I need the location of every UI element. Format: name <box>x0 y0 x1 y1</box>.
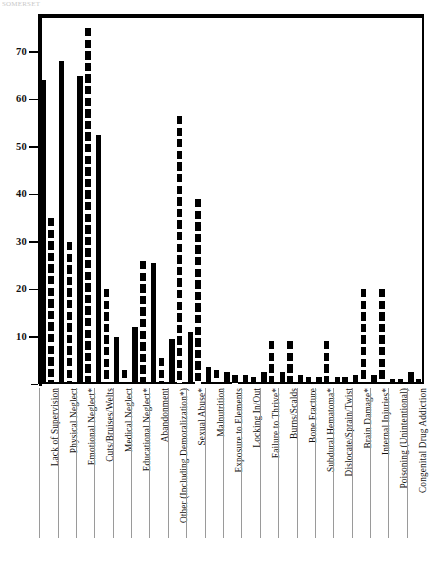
x-axis-separator <box>241 388 242 538</box>
bar-solid <box>390 379 395 384</box>
y-axis-tick-label: 10 <box>16 331 27 343</box>
bar-solid <box>114 337 119 384</box>
x-axis-separator <box>315 388 316 538</box>
x-axis-separator <box>205 388 206 538</box>
x-axis-label-slot: Failure to Thrive* <box>262 388 274 568</box>
bar-group <box>369 14 387 384</box>
x-axis-label-slot: Physical Neglect <box>60 388 72 568</box>
bar-dashed <box>177 116 182 384</box>
y-axis-tick-mark <box>29 241 38 243</box>
x-axis-label-slot: Congenital Drug Addiction <box>409 388 421 568</box>
bar-group <box>277 14 295 384</box>
bar-dashed <box>67 242 72 384</box>
x-axis-category-label: Congenital Drug Addiction <box>418 388 428 493</box>
bar-group <box>295 14 313 384</box>
bar-group <box>259 14 277 384</box>
x-axis-label-slot: Exposure to Elements <box>225 388 237 568</box>
bar-dashed <box>140 261 145 384</box>
bar-solid <box>151 263 156 384</box>
bar-dashed <box>324 341 329 384</box>
bar-solid <box>316 377 321 384</box>
bar-solid <box>169 339 174 384</box>
x-axis-label-slot: Internal Injuries* <box>372 388 384 568</box>
bar-dashed <box>232 375 237 384</box>
bar-dashed <box>398 379 403 384</box>
x-axis-separator <box>94 388 95 538</box>
bar-group <box>332 14 350 384</box>
x-axis-separator <box>297 388 298 538</box>
bar-dashed <box>269 341 274 384</box>
x-axis-label-slot: Brain Damage* <box>354 388 366 568</box>
bar-group <box>167 14 185 384</box>
bar-series-container <box>38 14 424 384</box>
bar-dashed <box>342 377 347 384</box>
x-axis-label-slot: Bone Fracture <box>299 388 311 568</box>
x-axis-separator <box>352 388 353 538</box>
bar-group <box>203 14 221 384</box>
bar-dashed <box>416 379 421 384</box>
x-axis-separator <box>131 388 132 538</box>
x-axis-separator <box>149 388 150 538</box>
bar-dashed <box>85 28 90 384</box>
y-axis-tick-mark <box>29 99 38 101</box>
bar-dashed <box>287 341 292 384</box>
bar-dashed <box>306 377 311 384</box>
x-axis-separator <box>388 388 389 538</box>
x-axis-separator <box>168 388 169 538</box>
y-axis-tick-label: 50 <box>16 141 27 153</box>
x-axis-separator <box>113 388 114 538</box>
x-axis-separator <box>333 388 334 538</box>
x-axis-separator <box>76 388 77 538</box>
bar-group <box>406 14 424 384</box>
x-axis-label-slot: Educational Neglect* <box>133 388 145 568</box>
bar-group <box>93 14 111 384</box>
y-axis-tick-label: 40 <box>16 188 27 200</box>
bar-solid <box>335 377 340 384</box>
bar-group <box>112 14 130 384</box>
bar-dashed <box>48 218 53 384</box>
y-axis-tick-label: 60 <box>16 93 27 105</box>
x-axis-separator <box>58 388 59 538</box>
bar-dashed <box>361 289 366 384</box>
bar-solid <box>243 375 248 384</box>
bar-group <box>350 14 368 384</box>
bar-group <box>75 14 93 384</box>
y-axis-tick-mark <box>29 336 38 338</box>
bar-solid <box>371 375 376 384</box>
bar-solid <box>206 367 211 384</box>
bar-solid <box>408 372 413 384</box>
x-axis-label-slot: Dislocate/Sprain/Twist <box>335 388 347 568</box>
bar-dashed <box>159 358 164 384</box>
x-axis-label-slot: Lack of Supervision <box>41 388 53 568</box>
y-axis: 10203040506070 <box>0 0 38 398</box>
y-axis-tick-mark <box>29 289 38 291</box>
x-axis-category-labels: Lack of SupervisionPhysical NeglectEmoti… <box>38 386 424 568</box>
bar-dashed <box>195 199 200 384</box>
bar-group <box>387 14 405 384</box>
y-axis-tick-label: 20 <box>16 283 27 295</box>
bar-solid <box>188 332 193 384</box>
bar-solid <box>224 372 229 384</box>
bar-group <box>148 14 166 384</box>
bar-group <box>240 14 258 384</box>
bar-solid <box>41 80 46 384</box>
x-axis-separator <box>278 388 279 538</box>
x-axis-label-slot: Emotional Neglect* <box>78 388 90 568</box>
y-axis-tick-mark <box>29 194 38 196</box>
x-axis-label-slot: Malnutrition <box>207 388 219 568</box>
bar-group <box>185 14 203 384</box>
x-axis-separator <box>407 388 408 538</box>
x-axis-label-slot: Abandonment <box>151 388 163 568</box>
bar-solid <box>96 135 101 384</box>
bar-group <box>130 14 148 384</box>
bar-solid <box>132 327 137 384</box>
x-axis-separator <box>186 388 187 538</box>
y-axis-tick-mark <box>31 384 38 386</box>
x-axis-label-slot: Locking In/Out <box>243 388 255 568</box>
y-axis-tick-label: 70 <box>16 46 27 58</box>
x-axis-separator <box>39 388 40 538</box>
bar-dashed <box>379 289 384 384</box>
bar-dashed <box>251 377 256 384</box>
bar-solid <box>280 372 285 384</box>
bar-group <box>56 14 74 384</box>
